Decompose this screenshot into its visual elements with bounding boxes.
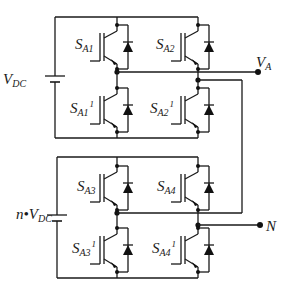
label-sa1-prime: SA11	[70, 100, 94, 118]
label-sa3: SA3	[77, 178, 97, 196]
terminal-n-dot	[257, 222, 263, 228]
igbt-icon-sa1	[90, 19, 133, 75]
igbt-icon-sa3-prime	[90, 222, 133, 278]
igbt-icon-sa2	[171, 19, 214, 75]
label-sa4: SA4	[157, 178, 177, 196]
label-vdc: VDC	[3, 71, 26, 89]
label-sa2-prime: SA21	[150, 100, 174, 118]
igbt-icon-sa2-prime	[171, 82, 214, 138]
circuit-diagram: VDC n•VDC SA1 SA2 SA11 SA21 SA3 SA4 SA31…	[0, 0, 289, 300]
igbt-icon-sa4	[171, 160, 214, 216]
label-sa1: SA1	[75, 36, 95, 54]
label-terminal-va: VA	[256, 54, 271, 72]
igbt-icon-sa1-prime	[90, 82, 133, 138]
label-n-vdc: n•VDC	[16, 206, 52, 224]
circuit-schematic	[0, 0, 289, 300]
label-sa3-prime: SA31	[72, 240, 96, 258]
label-sa4-prime: SA41	[152, 240, 176, 258]
label-sa2: SA2	[156, 36, 176, 54]
igbt-icon-sa4-prime	[171, 222, 214, 278]
bottom-h-bridge	[47, 157, 263, 278]
label-terminal-n: N	[266, 218, 276, 234]
battery-icon-vdc	[45, 76, 65, 85]
